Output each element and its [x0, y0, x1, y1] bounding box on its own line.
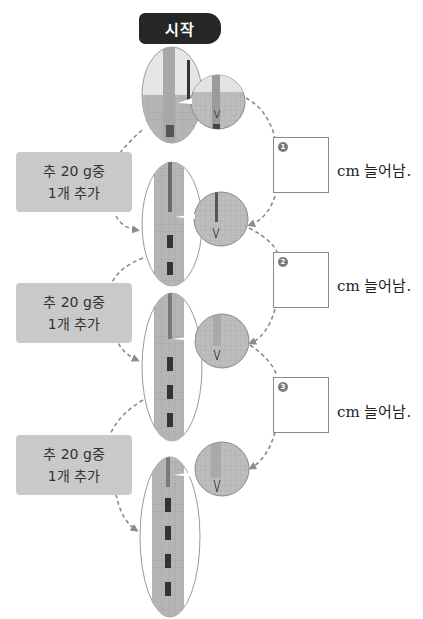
step-line1: 추 20 g중 — [43, 160, 105, 182]
arrow-step3-to-photo3 — [116, 494, 136, 530]
answer-unit-2: cm 늘어남. — [337, 274, 411, 295]
spring-photo-3 — [140, 442, 249, 617]
spring-photo-1 — [142, 162, 248, 286]
spring-photo-2 — [142, 293, 249, 441]
answer-unit-1: cm 늘어남. — [337, 159, 411, 180]
number-badge-icon: 1 — [278, 142, 288, 152]
step-line2: 1개 추가 — [48, 465, 100, 487]
answer-box-3[interactable]: 3 — [273, 377, 329, 433]
step-box-3: 추 20 g중 1개 추가 — [16, 435, 132, 495]
arrow-photo2-to-step3 — [110, 400, 143, 435]
arrow-answer2-to-photo2 — [251, 309, 275, 343]
arrow-photo1-to-answer2 — [249, 228, 277, 252]
step-line2: 1개 추가 — [48, 182, 100, 204]
answer-box-2[interactable]: 2 — [273, 252, 329, 308]
arrow-step1-to-photo1 — [116, 216, 137, 230]
arrow-photo0-to-answer1 — [246, 98, 275, 138]
start-badge: 시작 — [139, 13, 221, 44]
spring-photo-0 — [142, 47, 245, 145]
number-badge-icon: 3 — [278, 382, 288, 392]
arrow-photo2-to-answer3 — [250, 345, 277, 376]
number-badge-icon: 2 — [278, 257, 288, 267]
step-line1: 추 20 g중 — [43, 443, 105, 465]
step-line2: 1개 추가 — [48, 313, 100, 335]
arrow-answer3-to-photo3 — [251, 432, 275, 468]
arrow-answer1-to-photo1 — [250, 196, 275, 225]
step-box-2: 추 20 g중 1개 추가 — [16, 283, 132, 343]
step-line1: 추 20 g중 — [43, 291, 105, 313]
step-box-1: 추 20 g중 1개 추가 — [16, 152, 132, 212]
answer-unit-3: cm 늘어남. — [337, 400, 411, 421]
arrow-photo1-to-step2 — [112, 258, 143, 283]
answer-box-1[interactable]: 1 — [273, 137, 329, 193]
